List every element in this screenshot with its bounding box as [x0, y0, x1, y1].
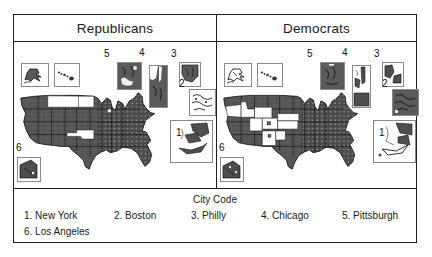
inset-box-hawaii: [54, 63, 80, 87]
marker-label-5: 5: [307, 49, 313, 59]
inset-box-hawaii: [257, 63, 283, 87]
legend-item-pittsburgh: 5. Pittsburgh: [342, 210, 398, 221]
marker-label-6: 6: [219, 143, 225, 153]
marker-label-2: 2: [179, 79, 185, 89]
inset-box-new-york: 1: [170, 120, 213, 163]
boston-map: [190, 90, 215, 115]
legend-title: City Code: [14, 194, 416, 205]
marker-label-1: 1: [176, 127, 182, 138]
inset-box-chicago: [352, 65, 371, 108]
marker-label-3: 3: [374, 49, 380, 59]
legend-item-philly: 3. Philly: [191, 210, 226, 221]
inset-box-alaska: [21, 63, 49, 87]
figure-canvas: Republicans Democrats: [0, 0, 432, 257]
panel-title-democrats: Democrats: [216, 15, 416, 41]
pittsburgh-map: [321, 63, 344, 89]
marker-label-3: 3: [171, 49, 177, 59]
chicago-map: [353, 66, 370, 107]
marker-label-4: 4: [139, 48, 145, 58]
inset-box-los-angeles: [17, 157, 41, 182]
hawaii-map: [55, 64, 79, 86]
legend-item-chicago: 4. Chicago: [261, 210, 309, 221]
legend-item-new-york: 1. New York: [24, 210, 77, 221]
title-bar: Republicans Democrats: [14, 15, 416, 42]
marker-label-6: 6: [16, 143, 22, 153]
city-code-legend: City Code 1. New York 2. Boston 3. Phill…: [14, 188, 416, 244]
marker-label-4: 4: [342, 48, 348, 58]
figure-frame: Republicans Democrats: [13, 14, 417, 243]
inset-box-alaska: [224, 63, 252, 87]
map-panel-republicans: 1 5: [14, 42, 216, 188]
alaska-map: [22, 64, 48, 86]
inset-box-los-angeles: [220, 157, 244, 182]
los-angeles-map: [221, 158, 243, 181]
legend-item-los-angeles: 6. Los Angeles: [24, 226, 90, 237]
panel-title-republicans: Republicans: [14, 15, 216, 41]
chicago-map: [150, 66, 167, 107]
inset-box-boston: [189, 89, 216, 116]
hawaii-map: [258, 64, 282, 86]
map-panel-democrats: 1: [216, 42, 416, 188]
los-angeles-map: [18, 158, 40, 181]
inset-box-pittsburgh: [117, 62, 142, 90]
inset-box-boston: [392, 89, 419, 116]
marker-label-5: 5: [104, 49, 110, 59]
inset-box-chicago: [149, 65, 168, 108]
marker-label-2: 2: [382, 79, 388, 89]
inset-box-pittsburgh: [320, 62, 345, 90]
marker-label-1: 1: [379, 127, 385, 138]
alaska-map: [225, 64, 251, 86]
pittsburgh-map: [118, 63, 141, 89]
maps-area: 1 5: [14, 42, 416, 188]
inset-box-new-york: 1: [373, 120, 416, 163]
legend-item-boston: 2. Boston: [114, 210, 156, 221]
boston-map: [393, 90, 418, 115]
